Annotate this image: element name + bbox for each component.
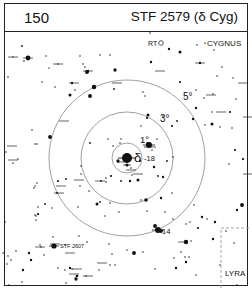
star — [39, 244, 41, 246]
star — [214, 221, 216, 223]
star — [104, 215, 106, 217]
star — [79, 185, 81, 187]
star — [179, 81, 181, 83]
star — [51, 207, 53, 209]
star — [71, 268, 73, 270]
star — [69, 267, 71, 269]
ring-label-3deg: 3° — [160, 113, 170, 124]
star — [86, 241, 88, 243]
star — [179, 51, 182, 54]
star — [109, 202, 111, 204]
star — [171, 192, 173, 194]
star — [41, 81, 43, 83]
star — [4, 221, 6, 223]
variable-star-rt — [159, 41, 164, 46]
star — [225, 230, 227, 232]
star — [12, 56, 13, 57]
star — [188, 256, 190, 258]
star — [211, 123, 214, 126]
star — [65, 178, 67, 180]
star — [76, 275, 79, 278]
star — [144, 146, 146, 148]
star — [171, 125, 173, 127]
star — [111, 253, 113, 255]
star — [144, 95, 146, 97]
star — [172, 218, 174, 220]
star — [164, 211, 166, 213]
star — [212, 238, 214, 240]
star — [176, 120, 178, 122]
star — [108, 243, 110, 245]
variable-star-label: RT — [148, 40, 158, 47]
star — [22, 269, 24, 271]
star — [99, 54, 101, 56]
ring-label-5deg: 5° — [183, 91, 193, 102]
star — [147, 114, 150, 117]
star — [192, 118, 194, 120]
star — [137, 179, 140, 182]
star — [43, 254, 45, 256]
star — [45, 55, 47, 57]
star — [185, 223, 187, 225]
star — [142, 251, 144, 253]
star — [211, 111, 213, 113]
star — [100, 180, 102, 182]
star — [154, 268, 156, 270]
star — [193, 204, 195, 206]
star — [151, 149, 153, 151]
star — [48, 67, 49, 68]
star — [212, 93, 214, 95]
star — [34, 143, 36, 145]
star — [197, 227, 199, 229]
star — [21, 45, 23, 47]
star — [184, 256, 186, 258]
star — [219, 264, 221, 266]
star — [144, 198, 148, 202]
star — [240, 203, 244, 207]
star — [37, 213, 39, 215]
primary-star-magnitude: -18 — [144, 154, 155, 163]
star — [231, 127, 233, 129]
star — [89, 142, 91, 144]
star — [69, 94, 72, 97]
star — [234, 149, 236, 151]
star — [30, 259, 32, 261]
star — [166, 160, 168, 162]
star — [74, 277, 77, 280]
star — [232, 77, 234, 79]
star — [105, 177, 107, 179]
star — [79, 55, 81, 57]
star — [2, 252, 4, 254]
star — [107, 138, 109, 140]
star — [44, 203, 46, 205]
star — [5, 151, 7, 153]
star — [162, 176, 164, 178]
star — [15, 250, 17, 252]
star — [92, 85, 97, 90]
star — [34, 214, 36, 216]
star — [84, 66, 86, 68]
star — [156, 138, 158, 140]
star — [82, 63, 84, 65]
star — [26, 56, 31, 61]
star — [17, 158, 19, 160]
star — [36, 143, 38, 145]
star — [78, 235, 80, 237]
star — [64, 269, 66, 271]
star — [8, 284, 10, 286]
star — [28, 252, 30, 254]
star — [85, 275, 87, 277]
star — [113, 68, 116, 71]
star — [189, 221, 191, 223]
star — [120, 138, 122, 140]
star — [33, 187, 35, 189]
star — [228, 163, 230, 165]
star — [23, 60, 25, 62]
star — [110, 175, 112, 177]
star — [142, 91, 144, 93]
star — [7, 255, 9, 257]
star — [35, 219, 37, 221]
star — [21, 281, 23, 283]
star — [80, 173, 82, 175]
star — [153, 224, 157, 228]
